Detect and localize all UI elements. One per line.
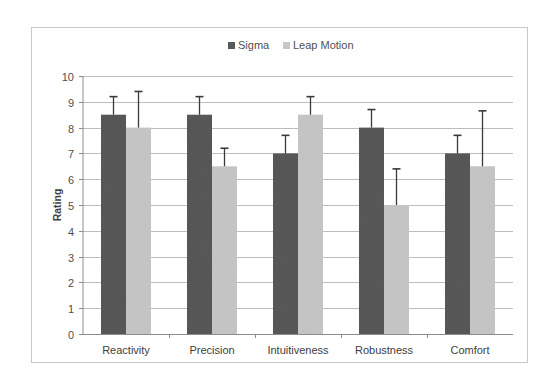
bar-sigma-robustness (359, 110, 384, 334)
bar-chart: SigmaLeap Motion Rating 012345678910 Rea… (0, 0, 553, 387)
bar-leap-motion-intuitiveness (298, 97, 323, 334)
bar-rect (445, 153, 470, 334)
x-tick-label: Intuitiveness (267, 344, 329, 356)
y-axis-ticks: 012345678910 (62, 71, 83, 341)
bar-sigma-precision (187, 97, 212, 334)
bar-rect (126, 128, 151, 334)
chart-legend: SigmaLeap Motion (228, 39, 354, 51)
y-tick-label: 9 (68, 97, 74, 109)
y-axis-title: Rating (51, 189, 63, 222)
y-tick-label: 8 (68, 123, 74, 135)
y-tick-label: 5 (68, 200, 74, 212)
legend-item-sigma: Sigma (228, 39, 270, 51)
bar-sigma-comfort (445, 135, 470, 334)
y-tick-label: 1 (68, 303, 74, 315)
y-tick-label: 4 (68, 226, 74, 238)
legend-swatch (283, 42, 290, 49)
y-tick-label: 2 (68, 277, 74, 289)
legend-item-leap-motion: Leap Motion (283, 39, 354, 51)
y-tick-label: 6 (68, 174, 74, 186)
bars (101, 91, 495, 334)
x-tick-label: Comfort (450, 344, 489, 356)
legend-label: Leap Motion (293, 39, 354, 51)
y-tick-label: 0 (68, 329, 74, 341)
y-tick-label: 7 (68, 148, 74, 160)
x-tick-label: Robustness (355, 344, 414, 356)
bar-rect (101, 115, 126, 334)
bar-sigma-intuitiveness (273, 135, 298, 334)
y-tick-label: 3 (68, 252, 74, 264)
bar-leap-motion-robustness (384, 169, 409, 334)
legend-swatch (228, 42, 235, 49)
legend-label: Sigma (238, 39, 270, 51)
bar-rect (470, 166, 495, 334)
bar-rect (384, 205, 409, 334)
bar-rect (187, 115, 212, 334)
bar-rect (212, 166, 237, 334)
y-tick-label: 10 (62, 71, 74, 83)
x-axis-labels: ReactivityPrecisionIntuitivenessRobustne… (102, 334, 489, 356)
x-tick-label: Reactivity (102, 344, 150, 356)
bar-leap-motion-reactivity (126, 91, 151, 334)
bar-leap-motion-precision (212, 148, 237, 334)
bar-rect (273, 153, 298, 334)
bar-rect (359, 128, 384, 334)
x-tick-label: Precision (189, 344, 234, 356)
bar-sigma-reactivity (101, 97, 126, 334)
bar-leap-motion-comfort (470, 111, 495, 334)
bar-rect (298, 115, 323, 334)
